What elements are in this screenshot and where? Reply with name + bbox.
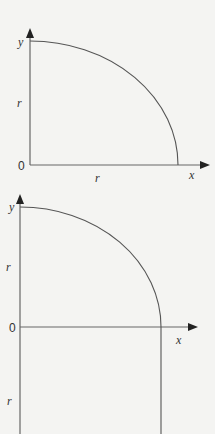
top-y-arrow-icon	[26, 28, 34, 38]
bottom-x-label: x	[175, 333, 182, 347]
bottom-r-upper-label: r	[6, 260, 11, 274]
top-r-horizontal-label: r	[95, 171, 100, 185]
bottom-y-arrow-icon	[16, 194, 24, 204]
top-x-arrow-icon	[200, 161, 210, 169]
bottom-origin-label: 0	[9, 321, 16, 335]
bottom-diagram: y r 0 x r	[6, 194, 198, 434]
bottom-quarter-arc	[20, 207, 161, 327]
top-quarter-arc	[30, 41, 178, 165]
top-r-vertical-label: r	[17, 96, 22, 110]
top-diagram: y r 0 r x	[17, 28, 210, 185]
top-x-label: x	[188, 168, 195, 182]
bottom-y-label: y	[8, 200, 15, 214]
top-origin-label: 0	[18, 159, 25, 173]
bottom-x-arrow-icon	[188, 323, 198, 331]
top-y-label: y	[17, 35, 24, 49]
diagram-canvas: y r 0 r x y r 0 x r	[0, 0, 215, 434]
bottom-r-lower-label: r	[7, 394, 12, 408]
